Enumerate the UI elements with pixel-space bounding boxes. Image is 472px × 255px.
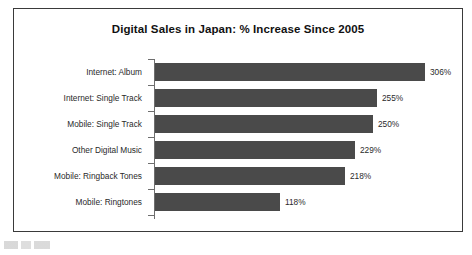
bar-row: Mobile: Single Track250% xyxy=(14,111,464,137)
bar-fill[interactable] xyxy=(155,63,425,81)
bar-category-label: Internet: Album xyxy=(14,59,142,85)
bar-row: Mobile: Ringtones118% xyxy=(14,189,464,215)
bar-row: Mobile: Ringback Tones218% xyxy=(14,163,464,189)
bar-category-label: Mobile: Single Track xyxy=(14,111,142,137)
bar-value-label: 218% xyxy=(345,167,371,185)
bar-value-label: 229% xyxy=(355,141,381,159)
bar-category-label: Mobile: Ringtones xyxy=(14,189,142,215)
bar-value-label: 306% xyxy=(425,63,451,81)
chart-title: Digital Sales in Japan: % Increase Since… xyxy=(14,23,462,35)
bar-fill[interactable] xyxy=(155,167,345,185)
page-artifact-smudge xyxy=(4,241,50,249)
bar-value-label: 118% xyxy=(280,193,306,211)
plot-area: Internet: Album306%Internet: Single Trac… xyxy=(14,57,464,221)
bar-row: Other Digital Music229% xyxy=(14,137,464,163)
bar-value-label: 255% xyxy=(377,89,403,107)
bar-category-label: Internet: Single Track xyxy=(14,85,142,111)
bar-value-label: 250% xyxy=(373,115,399,133)
axis-tick xyxy=(148,215,154,216)
bar-category-label: Mobile: Ringback Tones xyxy=(14,163,142,189)
bar-fill[interactable] xyxy=(155,193,280,211)
bar-row: Internet: Album306% xyxy=(14,59,464,85)
bar-fill[interactable] xyxy=(155,115,373,133)
bar-fill[interactable] xyxy=(155,89,377,107)
bar-fill[interactable] xyxy=(155,141,355,159)
bar-category-label: Other Digital Music xyxy=(14,137,142,163)
chart-frame: Digital Sales in Japan: % Increase Since… xyxy=(13,8,463,232)
bar-row: Internet: Single Track255% xyxy=(14,85,464,111)
